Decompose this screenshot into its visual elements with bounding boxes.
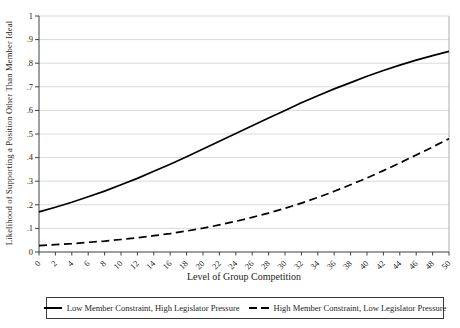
x-tick-label: 16 (161, 258, 174, 271)
x-tick-label: 48 (423, 258, 436, 271)
x-tick-label: 28 (259, 258, 272, 271)
x-tick-label: 34 (308, 258, 322, 272)
x-tick-label: 30 (275, 258, 288, 271)
dashed-line-sample (249, 307, 269, 309)
series-line-solid (39, 51, 449, 212)
legend-entry-solid: Low Member Constraint, High Legislator P… (44, 303, 240, 313)
x-tick-label: 10 (111, 258, 124, 271)
x-tick-label: 24 (226, 258, 240, 272)
legend-label-dashed: High Member Constraint, Low Legislator P… (274, 303, 447, 313)
y-tick-label: .2 (27, 200, 33, 210)
x-tick-label: 18 (177, 258, 190, 271)
x-tick-label: 6 (82, 258, 92, 268)
x-tick-label: 12 (128, 258, 141, 271)
x-tick-label: 36 (325, 258, 338, 271)
x-tick-label: 46 (407, 258, 420, 271)
solid-line-sample (44, 307, 62, 309)
y-tick-label: 0 (29, 247, 33, 257)
line-chart-figure: Likelihood of Supporting a Position Othe… (0, 0, 460, 328)
y-tick-label: .3 (27, 176, 33, 186)
x-tick-label: 8 (98, 258, 108, 268)
x-tick-label: 50 (439, 258, 452, 271)
legend-entry-dashed: High Member Constraint, Low Legislator P… (249, 303, 447, 313)
x-tick-label: 42 (374, 258, 387, 271)
x-tick-label: 0 (32, 258, 42, 268)
y-tick-label: .6 (27, 105, 33, 115)
y-tick-label: 1 (29, 11, 33, 21)
x-tick-label: 40 (357, 258, 370, 271)
y-tick-label: .1 (27, 223, 33, 233)
legend-label-solid: Low Member Constraint, High Legislator P… (67, 303, 240, 313)
y-tick-label: .4 (27, 152, 34, 162)
y-tick-label: .5 (27, 129, 33, 139)
x-tick-label: 4 (65, 258, 76, 269)
y-tick-label: .7 (27, 82, 33, 92)
legend-box: Low Member Constraint, High Legislator P… (46, 297, 444, 319)
x-tick-label: 20 (193, 258, 206, 271)
x-tick-label: 26 (243, 258, 256, 271)
x-tick-label: 22 (210, 258, 223, 271)
x-tick-label: 44 (390, 258, 404, 272)
y-tick-label: .9 (27, 34, 33, 44)
x-tick-label: 14 (144, 258, 158, 272)
x-tick-label: 38 (341, 258, 354, 271)
x-axis-title: Level of Group Competition (39, 271, 449, 282)
x-tick-label: 2 (49, 258, 59, 268)
y-tick-label: .8 (27, 58, 33, 68)
x-tick-label: 32 (292, 258, 305, 271)
